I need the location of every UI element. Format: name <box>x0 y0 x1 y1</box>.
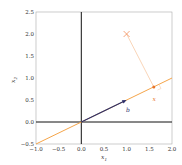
ytick: 1.0 <box>25 75 34 81</box>
ytick: 0.5 <box>25 97 34 103</box>
projection-chart: b x 2.5 2.0 1.5 1.0 0.5 0.0 −0.5 −1.0 −0… <box>0 0 182 165</box>
projection-point <box>152 86 155 89</box>
x-tick-labels: −1.0 −0.5 0.0 0.5 1.0 1.5 2.0 <box>29 146 177 152</box>
ytick: 1.5 <box>25 53 34 59</box>
xtick: 0.5 <box>100 146 109 152</box>
xtick: −0.5 <box>52 146 66 152</box>
ytick: 0.0 <box>25 119 34 125</box>
plot-area: b x <box>36 12 172 144</box>
ytick: 2.0 <box>25 31 34 37</box>
y-axis-label-sub: 2 <box>13 77 18 81</box>
x-axis-label-sub: 1 <box>105 157 108 162</box>
label-b: b <box>126 106 130 113</box>
y-tick-labels: 2.5 2.0 1.5 1.0 0.5 0.0 −0.5 <box>21 9 35 147</box>
x-axis-label: x 1 <box>101 153 107 162</box>
ytick: 2.5 <box>25 9 34 15</box>
xtick: 1.5 <box>145 146 154 152</box>
plot-frame <box>36 12 172 144</box>
y-axis-label: x 2 <box>9 77 18 84</box>
xtick: 0.0 <box>77 146 86 152</box>
xtick: 1.0 <box>122 146 131 152</box>
xtick: 2.0 <box>168 146 177 152</box>
xtick: −1.0 <box>29 146 43 152</box>
